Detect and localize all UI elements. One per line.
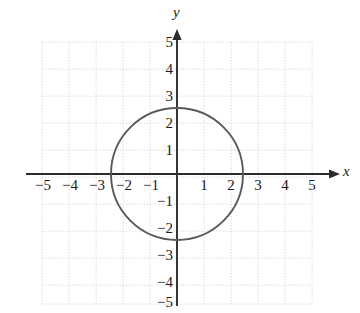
x-tick-label--2: −2 [115, 178, 133, 193]
x-tick-label--5: −5 [34, 178, 52, 193]
x-tick-label--1: −1 [142, 178, 160, 193]
y-tick-label--5: −5 [150, 295, 173, 310]
x-tick-label-1: 1 [197, 178, 211, 193]
x-axis-label: x [343, 164, 350, 179]
y-tick-label-1: 1 [157, 143, 173, 158]
x-tick-label-4: 4 [278, 178, 292, 193]
x-tick-label-3: 3 [251, 178, 265, 193]
y-tick-label-5: 5 [157, 35, 173, 50]
coordinate-plane-figure: −5 −4 −3 −2 −1 1 2 3 4 5 5 4 3 2 1 −1 −2… [0, 0, 360, 313]
y-tick-label--3: −3 [150, 248, 173, 263]
y-tick-label-3: 3 [157, 89, 173, 104]
y-tick-label-2: 2 [157, 116, 173, 131]
x-tick-label-5: 5 [305, 178, 319, 193]
y-tick-label-4: 4 [157, 62, 173, 77]
y-tick-label--1: −1 [150, 194, 173, 209]
x-tick-label-2: 2 [224, 178, 238, 193]
y-tick-label--2: −2 [150, 221, 173, 236]
y-axis-label: y [173, 5, 180, 20]
plot-canvas [0, 0, 360, 313]
y-axis [172, 29, 181, 306]
x-tick-label--3: −3 [88, 178, 106, 193]
x-tick-label--4: −4 [61, 178, 79, 193]
y-tick-label--4: −4 [150, 275, 173, 290]
